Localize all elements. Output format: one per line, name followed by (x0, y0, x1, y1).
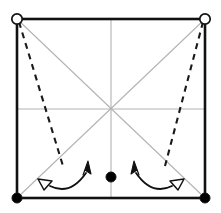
dashed-line-left (19, 22, 63, 166)
node-top-left-open-circle (12, 14, 22, 24)
geometric-diagram (0, 0, 221, 213)
node-center-bottom-filled-circle (106, 172, 116, 182)
arrow-right-solid-arrow-head (131, 161, 139, 175)
arrow-left-solid-arrow-head (83, 161, 91, 175)
arrow-right-curve (136, 173, 172, 189)
node-top-right-open-circle (200, 14, 210, 24)
node-bottom-left-filled-circle (12, 193, 22, 203)
arrow-left-hollow-triangle-head (38, 179, 52, 190)
arrow-left-curve (50, 173, 86, 189)
arrow-right-rotation (131, 161, 184, 190)
diagram-canvas (0, 0, 221, 213)
arrow-right-hollow-triangle-head (170, 179, 184, 190)
node-bottom-right-filled-circle (200, 193, 210, 203)
arrow-left-rotation (38, 161, 91, 190)
dashed-line-right (165, 22, 203, 166)
